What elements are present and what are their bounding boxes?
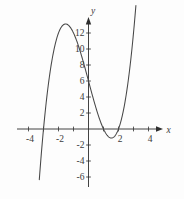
y-tick-label: -6 <box>77 172 85 182</box>
x-axis-arrow-icon <box>156 126 163 131</box>
y-tick-label: 6 <box>80 76 85 86</box>
x-tick-label: 4 <box>148 134 153 144</box>
cubic-function-plot: -4-22412108642-2-4-6xy <box>0 0 184 199</box>
y-tick-label: 12 <box>75 28 85 38</box>
x-tick-label: 2 <box>118 134 123 144</box>
x-axis-label: x <box>166 125 172 135</box>
function-curve <box>39 6 136 180</box>
x-tick-label: -2 <box>56 134 64 144</box>
y-axis-label: y <box>90 6 96 16</box>
y-tick-label: -4 <box>77 156 85 166</box>
y-tick-label: -2 <box>77 140 85 150</box>
cubic-function-figure: -4-22412108642-2-4-6xy <box>0 0 184 199</box>
y-tick-label: 4 <box>80 92 85 102</box>
y-tick-label: 2 <box>80 108 85 118</box>
y-axis-arrow-icon <box>86 17 91 25</box>
x-tick-label: -4 <box>26 134 34 144</box>
